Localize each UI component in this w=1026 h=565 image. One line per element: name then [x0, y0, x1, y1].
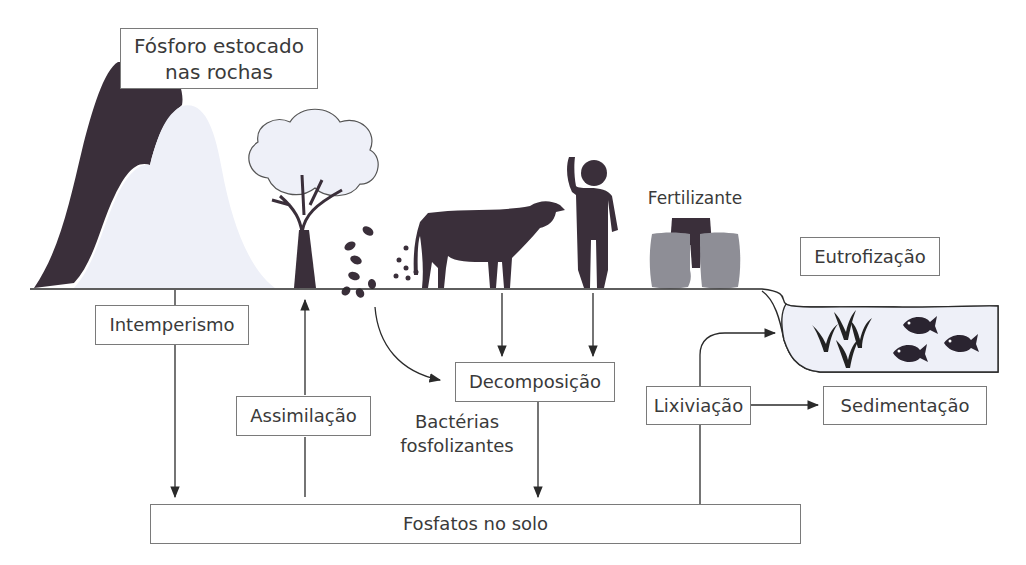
bacteria-label: Bactérias fosfolizantes	[382, 410, 532, 458]
assimilation-label: Assimilação	[250, 404, 357, 428]
bacteria-label-line2: fosfolizantes	[382, 434, 532, 458]
soil-phosphates-box: Fosfatos no solo	[150, 504, 801, 544]
falling-leaves-icon	[340, 224, 419, 299]
mountain-rock-icon	[34, 62, 275, 288]
leaching-label: Lixiviação	[654, 394, 743, 418]
eutrophication-label: Eutrofização	[814, 245, 926, 269]
rocks-box-line1: Fósforo estocado	[134, 33, 304, 59]
fertilizer-label: Fertilizante	[640, 186, 750, 210]
cow-icon	[414, 201, 565, 288]
soil-phosphates-label: Fosfatos no solo	[403, 512, 548, 536]
person-icon	[567, 157, 618, 288]
assimilation-box: Assimilação	[236, 396, 371, 436]
bacteria-label-line1: Bactérias	[382, 410, 532, 434]
sedimentation-box: Sedimentação	[823, 386, 987, 425]
weathering-label: Intemperismo	[109, 313, 234, 337]
rocks-box-line2: nas rochas	[165, 59, 273, 85]
leaching-box: Lixiviação	[646, 386, 751, 425]
rocks-box: Fósforo estocado nas rochas	[120, 28, 318, 89]
sedimentation-label: Sedimentação	[841, 394, 970, 418]
decomposition-box: Decomposição	[455, 362, 615, 402]
eutrophication-box: Eutrofização	[800, 237, 940, 276]
fertilizer-bags-icon	[650, 218, 741, 289]
weathering-box: Intemperismo	[95, 305, 249, 345]
decomposition-label: Decomposição	[469, 370, 601, 394]
